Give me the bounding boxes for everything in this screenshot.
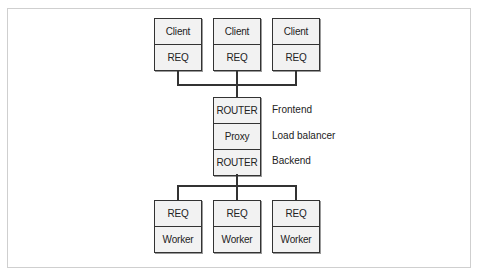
worker-box-1: REQ Worker (154, 200, 202, 253)
broker-box: ROUTER Proxy ROUTER (213, 97, 261, 176)
client-box-2: Client REQ (213, 18, 261, 71)
frontend-label: Frontend (272, 97, 312, 122)
connector-bus-bottom (177, 185, 297, 187)
backend-router-label: ROUTER (214, 149, 260, 175)
worker-label: Worker (214, 226, 260, 252)
worker-box-3: REQ Worker (272, 200, 320, 253)
connector-line (177, 70, 179, 85)
frontend-router-label: ROUTER (214, 98, 260, 123)
load-balancer-label: Load balancer (272, 123, 335, 148)
req-socket-label: REQ (214, 44, 260, 70)
client-label: Client (155, 19, 201, 44)
client-box-3: Client REQ (272, 18, 320, 71)
client-label: Client (273, 19, 319, 44)
connector-line (236, 174, 238, 200)
req-socket-label: REQ (214, 201, 260, 226)
worker-label: Worker (273, 226, 319, 252)
req-socket-label: REQ (273, 44, 319, 70)
req-socket-label: REQ (155, 201, 201, 226)
backend-label: Backend (272, 148, 311, 173)
req-socket-label: REQ (155, 44, 201, 70)
client-label: Client (214, 19, 260, 44)
connector-line (295, 185, 297, 200)
req-socket-label: REQ (273, 201, 319, 226)
worker-box-2: REQ Worker (213, 200, 261, 253)
worker-label: Worker (155, 226, 201, 252)
proxy-label: Proxy (214, 123, 260, 149)
connector-bus-top (177, 84, 297, 86)
client-box-1: Client REQ (154, 18, 202, 71)
connector-line (177, 185, 179, 200)
connector-line (295, 70, 297, 85)
